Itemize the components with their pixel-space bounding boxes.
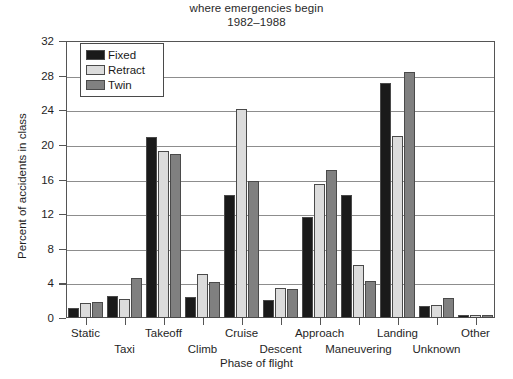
x-axis-title: Phase of flight: [0, 357, 513, 369]
x-axis-tick: [398, 318, 399, 325]
x-axis-tick: [281, 318, 282, 325]
y-axis-tick: [59, 249, 66, 250]
y-axis-tick: [59, 283, 66, 284]
x-axis-label-unknown: Unknown: [413, 343, 461, 355]
x-axis-tick: [359, 318, 360, 325]
y-axis-tick-label: 20: [41, 139, 54, 151]
chart-title-line-1: where emergencies begin: [0, 1, 513, 15]
y-axis-tick-label: 28: [41, 70, 54, 82]
x-axis-tick: [437, 318, 438, 325]
chart-title: where emergencies begin 1982–1988: [0, 1, 513, 29]
y-axis-tick-label: 0: [48, 312, 54, 324]
y-axis-tick-label: 8: [48, 243, 54, 255]
legend-label-retract: Retract: [108, 64, 145, 76]
x-axis-tick: [320, 318, 321, 325]
x-axis-tick: [476, 318, 477, 325]
legend-item-fixed: Fixed: [86, 47, 158, 62]
legend-swatch-fixed: [86, 50, 105, 60]
gridline: [67, 215, 494, 216]
y-axis-title: Percent of accidents in class: [16, 76, 28, 296]
legend-label-fixed: Fixed: [108, 49, 136, 61]
x-axis-label-static: Static: [71, 327, 100, 339]
x-axis-label-cruise: Cruise: [225, 327, 258, 339]
x-axis-label-climb: Climb: [188, 343, 217, 355]
y-axis: Percent of accidents in class 0481216202…: [0, 0, 66, 379]
x-axis-label-other: Other: [461, 327, 490, 339]
gridline: [67, 284, 494, 285]
bar-chart: where emergencies begin 1982–1988 Percen…: [0, 0, 513, 379]
x-axis-label-taxi: Taxi: [114, 343, 134, 355]
x-axis-tick: [86, 318, 87, 325]
x-axis-tick: [164, 318, 165, 325]
x-axis-label-descent: Descent: [259, 343, 301, 355]
y-axis-tick: [59, 76, 66, 77]
y-axis-tick-label: 12: [41, 208, 54, 220]
legend-item-twin: Twin: [86, 77, 158, 92]
y-axis-tick: [59, 41, 66, 42]
gridline: [67, 181, 494, 182]
legend-swatch-retract: [86, 65, 105, 75]
x-axis-tick: [125, 318, 126, 325]
x-axis-label-takeoff: Takeoff: [145, 327, 182, 339]
y-axis-tick: [59, 214, 66, 215]
y-axis-tick: [59, 180, 66, 181]
y-axis-tick-label: 32: [41, 35, 54, 47]
chart-legend: Fixed Retract Twin: [80, 43, 164, 97]
gridline: [67, 111, 494, 112]
gridline: [67, 146, 494, 147]
y-axis-tick: [59, 110, 66, 111]
gridline: [67, 250, 494, 251]
legend-label-twin: Twin: [108, 79, 132, 91]
chart-title-line-2: 1982–1988: [0, 15, 513, 29]
y-axis-tick-label: 16: [41, 174, 54, 186]
x-axis-tick: [242, 318, 243, 325]
x-axis-label-maneuvering: Maneuvering: [325, 343, 391, 355]
legend-swatch-twin: [86, 80, 105, 90]
legend-item-retract: Retract: [86, 62, 158, 77]
y-axis-tick: [59, 145, 66, 146]
y-axis-tick-label: 4: [48, 277, 54, 289]
y-axis-tick-label: 24: [41, 104, 54, 116]
x-axis-label-approach: Approach: [295, 327, 344, 339]
x-axis-tick: [203, 318, 204, 325]
y-axis-tick: [59, 318, 66, 319]
x-axis-label-landing: Landing: [377, 327, 418, 339]
